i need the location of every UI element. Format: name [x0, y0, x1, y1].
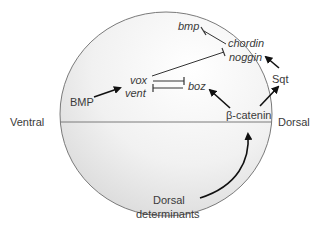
label-dorsal: Dorsal	[278, 116, 310, 128]
label-chordin: chordin	[228, 37, 264, 49]
label-boz: boz	[188, 80, 206, 92]
label-BMP-protein: BMP	[70, 96, 94, 108]
label-dorsal-determinants-line2: determinants	[136, 208, 200, 220]
label-noggin: noggin	[229, 51, 262, 63]
label-vent: vent	[125, 87, 146, 99]
label-ventral: Ventral	[10, 116, 44, 128]
sqt-activates-noggin-arrow	[266, 57, 279, 68]
label-dorsal-determinants-line1: Dorsal	[153, 194, 185, 206]
label-vox: vox	[130, 74, 147, 86]
label-bmp-gene: bmp	[178, 20, 199, 32]
label-sqt: Sqt	[272, 73, 289, 85]
label-beta-catenin: β-catenin	[226, 109, 271, 121]
